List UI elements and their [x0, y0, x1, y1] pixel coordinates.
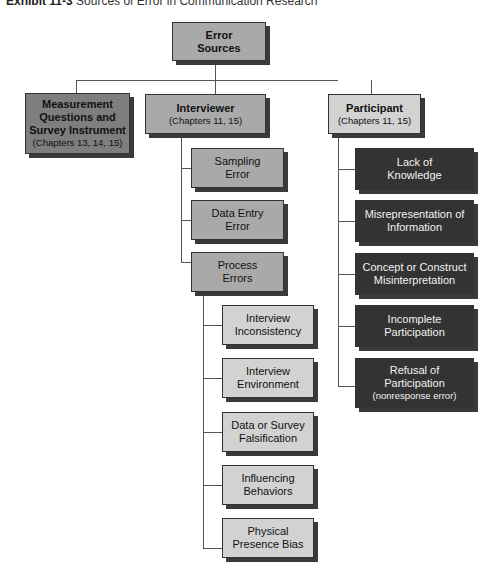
connector-c4	[203, 485, 222, 486]
node-data-entry-error: Data Entry Error	[191, 200, 284, 240]
connector-sampling	[181, 168, 191, 169]
node-data-survey-falsification: Data or Survey Falsification	[222, 412, 314, 452]
node-influencing-behaviors: Influencing Behaviors	[222, 465, 314, 505]
connector-root-down	[215, 61, 216, 80]
exhibit-caption: Sources of Error in Communication Resear…	[76, 0, 317, 8]
node-label: Error Sources	[173, 29, 265, 55]
connector-p2	[338, 221, 355, 222]
node-sublabel: (Chapters 11, 15)	[169, 115, 242, 127]
node-label: Measurement Questions and Survey Instrum…	[26, 98, 129, 137]
connector-c2	[203, 378, 222, 379]
node-label: Interviewer	[176, 102, 234, 115]
connector-c1	[203, 325, 222, 326]
node-label: Influencing Behaviors	[237, 472, 299, 498]
node-misrepresentation: Misrepresentation of Information	[355, 200, 474, 242]
node-interview-inconsistency: Interview Inconsistency	[222, 305, 314, 345]
node-label: Process Errors	[212, 259, 263, 285]
exhibit-number: Exhibit 11-3	[6, 0, 73, 8]
connector-p3	[338, 274, 355, 275]
node-label: Refusal of Participation	[356, 364, 473, 390]
node-sublabel: (Chapters 11, 15)	[338, 115, 411, 127]
connector-process	[181, 262, 191, 263]
connector-participant-trunk	[338, 134, 339, 386]
connector-c5	[203, 548, 222, 549]
node-interviewer: Interviewer (Chapters 11, 15)	[145, 94, 266, 134]
connector-participant	[371, 80, 372, 94]
node-incomplete-participation: Incomplete Participation	[355, 305, 474, 347]
node-sublabel: (Chapters 13, 14, 15)	[33, 137, 123, 149]
node-label: Misrepresentation of Information	[362, 208, 467, 234]
node-label: Physical Presence Bias	[231, 525, 305, 551]
connector-interviewer	[215, 80, 216, 94]
exhibit-title: Exhibit 11-3 Sources of Error in Communi…	[6, 0, 317, 8]
connector-horizontal	[76, 80, 338, 81]
node-participant: Participant (Chapters 11, 15)	[328, 94, 421, 134]
connector-dataentry	[181, 220, 191, 221]
connector-measurement	[76, 80, 77, 93]
node-concept-misinterpretation: Concept or Construct Misinterpretation	[355, 253, 474, 295]
node-lack-of-knowledge: Lack of Knowledge	[355, 148, 474, 190]
connector-p5	[338, 386, 355, 387]
node-refusal-of-participation: Refusal of Participation (nonresponse er…	[355, 358, 474, 408]
node-interview-environment: Interview Environment	[222, 358, 314, 398]
node-label: Participant	[346, 102, 403, 115]
connector-c3	[203, 432, 222, 433]
node-process-errors: Process Errors	[191, 252, 284, 292]
node-sublabel: (nonresponse error)	[373, 390, 457, 402]
connector-p1	[338, 169, 355, 170]
node-label: Interview Inconsistency	[233, 312, 303, 338]
node-label: Lack of Knowledge	[386, 156, 443, 182]
node-sampling-error: Sampling Error	[191, 148, 284, 188]
node-label: Sampling Error	[212, 155, 263, 181]
connector-process-trunk	[203, 292, 204, 548]
node-label: Data Entry Error	[206, 207, 269, 233]
node-label: Data or Survey Falsification	[229, 419, 307, 445]
node-label: Incomplete Participation	[380, 313, 449, 339]
connector-interviewer-trunk	[181, 134, 182, 262]
node-label: Concept or Construct Misinterpretation	[360, 261, 469, 287]
node-label: Interview Environment	[233, 365, 303, 391]
root-node-error-sources: Error Sources	[172, 22, 266, 61]
node-physical-presence-bias: Physical Presence Bias	[222, 518, 314, 558]
node-measurement: Measurement Questions and Survey Instrum…	[25, 93, 130, 154]
connector-p4	[338, 326, 355, 327]
